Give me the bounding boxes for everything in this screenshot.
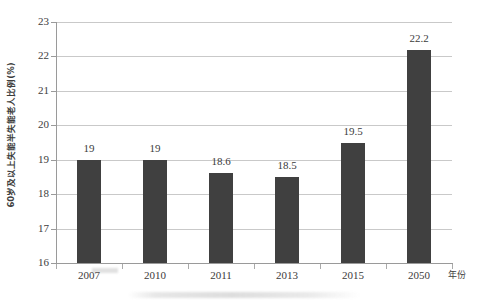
scan-artifact xyxy=(128,292,360,298)
bar xyxy=(341,143,365,264)
y-tick-label-text: 22 xyxy=(3,50,49,61)
bar xyxy=(77,160,101,263)
bar-value-label: 18.6 xyxy=(191,156,251,167)
bar-value-label: 22.2 xyxy=(389,33,449,44)
bar-value-label: 19 xyxy=(125,143,185,154)
x-tick-label: 2050 xyxy=(386,269,452,281)
gridline xyxy=(56,56,452,57)
bar xyxy=(209,173,233,263)
x-tick-label: 2013 xyxy=(254,269,320,281)
x-tick-mark xyxy=(452,264,453,269)
y-tick-label: 19 xyxy=(0,154,49,165)
y-tick-label: 22 xyxy=(0,50,49,61)
gridline xyxy=(56,125,452,126)
y-tick-label: 17 xyxy=(0,223,49,234)
bar-chart: 60岁及以上失能半失能老人比例(%) 2322212019181716 1919… xyxy=(0,0,480,302)
y-tick-label: 21 xyxy=(0,85,49,96)
y-tick-label: 16 xyxy=(0,257,49,268)
y-tick-label: 23 xyxy=(0,16,49,27)
bar xyxy=(143,160,167,263)
x-tick-mark xyxy=(56,264,57,269)
bar-value-label: 18.5 xyxy=(257,160,317,171)
y-tick-label-text: 21 xyxy=(3,85,49,96)
y-tick-label: 18 xyxy=(0,188,49,199)
bar xyxy=(407,50,431,263)
y-tick-label-text: 23 xyxy=(3,16,49,27)
bar-value-label: 19 xyxy=(59,143,119,154)
y-tick-label-text: 18 xyxy=(3,188,49,199)
x-tick-label: 2015 xyxy=(320,269,386,281)
y-tick-label-text: 20 xyxy=(3,119,49,130)
gridline xyxy=(56,22,452,23)
gridline xyxy=(56,91,452,92)
gridline xyxy=(56,194,452,195)
y-axis-line xyxy=(56,22,57,264)
bar-value-label: 19.5 xyxy=(323,126,383,137)
x-axis-title: 年份 xyxy=(448,270,466,281)
x-tick-label: 2010 xyxy=(122,269,188,281)
x-tick-label: 2011 xyxy=(188,269,254,281)
scan-artifact-secondary xyxy=(92,268,118,273)
y-tick-label-text: 17 xyxy=(3,223,49,234)
y-tick-label-text: 19 xyxy=(3,154,49,165)
gridline xyxy=(56,229,452,230)
y-tick-label-text: 16 xyxy=(3,257,49,268)
gridline xyxy=(56,160,452,161)
bar xyxy=(275,177,299,263)
y-tick-label: 20 xyxy=(0,119,49,130)
